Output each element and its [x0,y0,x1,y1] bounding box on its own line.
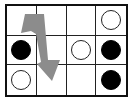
grid-cell-r1-c1[interactable] [7,6,37,36]
white-circle-icon [71,40,91,60]
grid-cell-r3-c4[interactable] [96,65,126,95]
black-circle-icon [11,40,31,60]
grid [5,4,128,97]
grid-cell-r2-c3[interactable] [67,36,97,66]
black-circle-icon [101,70,121,90]
white-circle-icon [101,10,121,30]
grid-cell-r3-c2[interactable] [37,65,67,95]
puzzle-board [5,4,128,97]
white-circle-icon [11,70,31,90]
grid-cell-r1-c4[interactable] [96,6,126,36]
grid-cell-r3-c3[interactable] [67,65,97,95]
black-circle-icon [101,40,121,60]
grid-cell-r1-c2[interactable] [37,6,67,36]
grid-cell-r2-c4[interactable] [96,36,126,66]
grid-cell-r1-c3[interactable] [67,6,97,36]
grid-cell-r3-c1[interactable] [7,65,37,95]
grid-cell-r2-c2[interactable] [37,36,67,66]
grid-cell-r2-c1[interactable] [7,36,37,66]
